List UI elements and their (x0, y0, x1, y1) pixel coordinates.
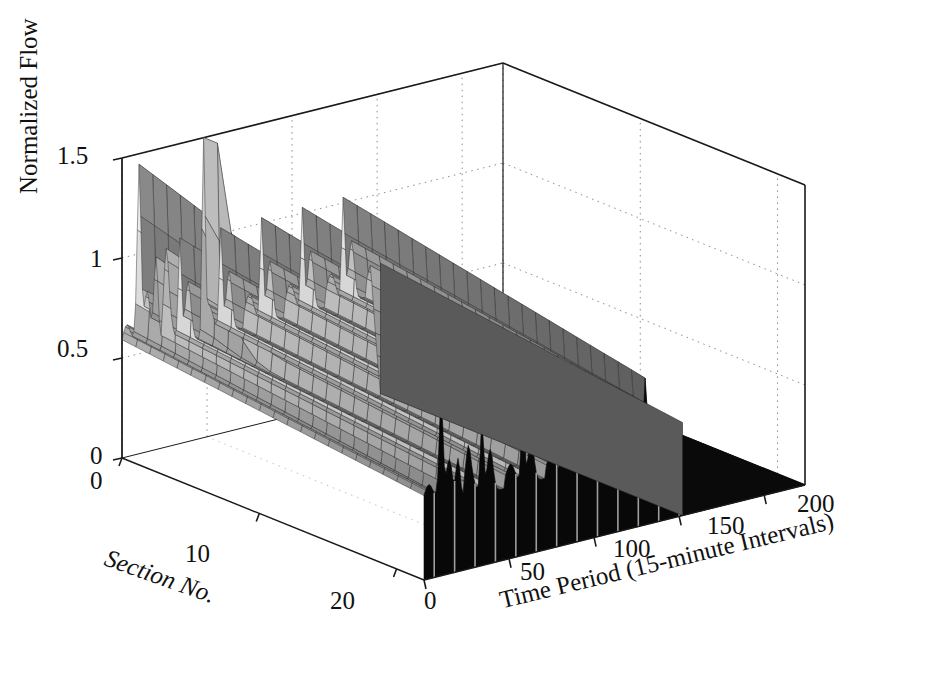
y-tick-0: 0 (424, 588, 437, 613)
z-tick-1-5: 1.5 (57, 143, 88, 168)
z-tick-0: 0 (90, 443, 103, 468)
z-axis-title: Normalized Flow (16, 18, 41, 194)
z-tick-0-5: 0.5 (57, 336, 88, 361)
x-tick-0: 0 (90, 468, 103, 493)
z-tick-1: 1 (90, 246, 103, 271)
figure-canvas: Normalized Flow 1.5 1 0.5 0 0 10 20 Sect… (0, 0, 930, 692)
x-tick-10: 10 (185, 541, 210, 566)
mesh-surface (122, 138, 683, 580)
surface-plot-svg (0, 0, 930, 692)
x-tick-20: 20 (330, 588, 355, 613)
